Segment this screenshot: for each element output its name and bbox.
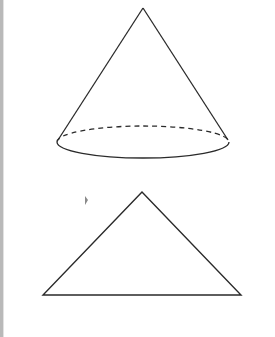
cone-base-back-edge: [57, 126, 229, 142]
cone-base-front-edge: [57, 142, 229, 158]
triangle-outline: [43, 192, 241, 295]
small-mark: [85, 196, 88, 205]
geometry-figure: [0, 0, 275, 337]
cone: [57, 8, 229, 158]
triangle: [43, 192, 241, 295]
cone-right-slant: [143, 8, 228, 140]
cone-left-slant: [58, 8, 143, 140]
